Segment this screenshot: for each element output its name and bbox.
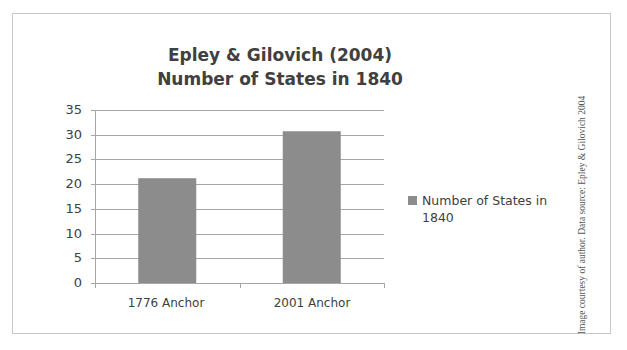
y-tick-label: 5 [52,251,82,265]
bar-1 [138,178,196,283]
image-credit: Image courtesy of author. Data source: E… [576,95,588,335]
y-tick-label: 15 [52,202,82,216]
legend-swatch [408,196,417,205]
x-category-label-1: 1776 Anchor [96,296,236,310]
legend-label: Number of States in 1840 [422,192,562,226]
y-tick-label: 30 [52,128,82,142]
y-tick-label: 0 [52,276,82,290]
y-tick-label: 25 [52,152,82,166]
y-tick-label: 35 [52,103,82,117]
y-tick-label: 20 [52,177,82,191]
y-tick-label: 10 [52,227,82,241]
x-category-label-2: 2001 Anchor [242,296,382,310]
bar-2 [283,131,341,283]
